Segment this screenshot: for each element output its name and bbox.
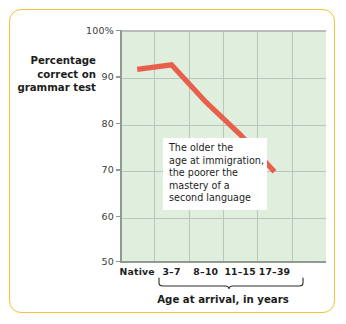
y-tick-labels: 100% 90 80 70 60 50 xyxy=(72,0,114,324)
y-tick-label-50: 50 xyxy=(74,256,114,267)
y-tick-label-90: 90 xyxy=(74,71,114,82)
y-tick-label-100: 100% xyxy=(74,25,114,36)
x-tick-label-native: Native xyxy=(120,266,155,277)
annotation-box: The older the age at immigration, the po… xyxy=(163,138,267,210)
annotation-line-3: the poorer the xyxy=(169,167,262,180)
brace-path xyxy=(159,278,303,289)
annotation-line-1: The older the xyxy=(169,142,262,155)
x-tick-label-8-10: 8–10 xyxy=(193,266,218,277)
y-tick-label-60: 60 xyxy=(74,211,114,222)
x-tick-label-17-39: 17–39 xyxy=(259,266,291,277)
annotation-line-4: mastery of a xyxy=(169,180,262,193)
annotation-line-2: age at immigration, xyxy=(169,155,262,168)
x-tick-label-11-15: 11–15 xyxy=(224,266,256,277)
annotation-line-5: second language xyxy=(169,192,262,205)
chart-figure: Percentage correct on grammar test 100% … xyxy=(0,0,346,324)
x-tick-label-3-7: 3–7 xyxy=(162,266,180,277)
range-brace xyxy=(157,277,305,291)
x-axis-title: Age at arrival, in years xyxy=(120,294,326,305)
y-tick-label-80: 80 xyxy=(74,118,114,129)
y-tick-label-70: 70 xyxy=(74,164,114,175)
